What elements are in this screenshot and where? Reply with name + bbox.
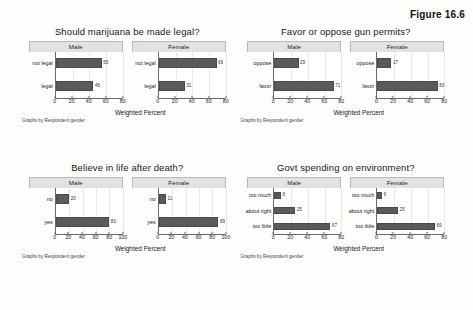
panel-male: Malenot legallegal5545020406080 [29,41,123,108]
tick-label: 60 [206,99,212,104]
bar-value-label: 11 [168,197,173,202]
tick-label: 60 [93,235,99,240]
bar [159,81,185,91]
x-axis: 020406080 [273,99,341,108]
tick-label: 40 [189,99,195,104]
category-label: legal [144,84,155,89]
plot-wrap: too muchabout righttoo little62569 [350,188,444,235]
bar-value-label: 89 [220,220,225,225]
category-label: no [150,197,156,202]
category-label: yes [44,220,52,225]
x-axis: 020406080100 [55,235,123,244]
tick-label: 80 [223,99,229,104]
gridline [226,188,227,234]
tick-label: 0 [53,99,56,104]
tick-label: 80 [209,235,215,240]
bar-value-label: 31 [186,84,191,89]
panel-header: Female [132,41,226,52]
category-label: about right [246,209,271,214]
chart-title: Should marijuana be made legal? [20,26,235,37]
tick-label: 60 [424,99,430,104]
category-label: not legal [135,61,155,66]
plot-wrap: noyes1189 [132,188,226,235]
bar [274,192,281,199]
tick-label: 40 [407,99,413,104]
gridline [341,188,342,234]
bar-row: 11 [159,194,226,204]
axis-title: Weighted Percent [265,109,454,116]
plot-area: 1189 [158,188,226,235]
gridline [444,52,445,98]
gridline [123,188,124,234]
panel-male: Maletoo muchabout righttoo little8256702… [247,177,341,244]
bar [377,207,398,214]
bar [377,192,382,199]
bar [377,223,435,230]
gridline [123,52,124,98]
panel-header: Male [247,177,341,188]
category-label: legal [41,84,52,89]
bar-value-label: 25 [297,208,302,213]
bar [377,81,437,91]
panel-header: Female [350,177,444,188]
panel-female: Femalenoyes1189020406080100 [132,177,226,244]
bar-row: 29 [274,58,341,68]
panel-male: Maleopposefavor2971020406080 [247,41,341,108]
bar-row: 55 [56,58,123,68]
chart-grid: Should marijuana be made legal?Malenot l… [18,24,455,296]
chart-title: Believe in life after death? [20,162,235,173]
category-label: yes [147,220,155,225]
tick-label: 60 [321,99,327,104]
tick-label: 40 [182,235,188,240]
tick-label: 20 [287,99,293,104]
figure-sheet: Figure 16.6 Should marijuana be made leg… [0,0,473,310]
x-axis: 020406080 [273,235,341,244]
tick-label: 80 [106,235,112,240]
plot-area: 2971 [273,52,341,99]
category-label: too much [249,193,271,198]
category-labels: not legallegal [29,52,55,99]
plot-area: 2080 [55,188,123,235]
chart-title: Favor or oppose gun permits? [239,26,454,37]
axis-title: Weighted Percent [46,109,235,116]
bar-row: 8 [274,192,341,199]
panel-header: Male [29,177,123,188]
bar-row: 45 [56,81,123,91]
bar [274,223,330,230]
panel-female: Femaleopposefavor1783020406080 [350,41,444,108]
bar-row: 31 [159,81,226,91]
category-labels: too muchabout righttoo little [350,188,376,235]
tick-label: 60 [321,235,327,240]
bar-row: 20 [56,194,123,204]
category-label: too little [253,224,272,229]
tick-label: 100 [221,235,230,240]
panel-header: Male [29,41,123,52]
bar-row: 17 [377,58,444,68]
bar [56,194,69,204]
category-label: too little [356,224,375,229]
category-label: no [47,197,53,202]
bar-value-label: 17 [393,61,398,66]
tick-label: 40 [304,235,310,240]
tick-label: 80 [120,99,126,104]
panel-female: Femalenot legallegal6931020406080 [132,41,226,108]
tick-label: 20 [69,99,75,104]
bar [274,81,333,91]
bar [274,207,295,214]
axis-title: Weighted Percent [265,245,454,252]
bar [377,58,391,68]
tick-label: 0 [156,235,159,240]
tick-label: 0 [375,235,378,240]
tick-label: 0 [375,99,378,104]
plot-area: 6931 [158,52,226,99]
tick-label: 40 [79,235,85,240]
chart-2: Favor or oppose gun permits?Maleopposefa… [237,24,456,160]
bar-value-label: 55 [103,61,108,66]
tick-label: 40 [407,235,413,240]
panel-header: Female [350,41,444,52]
plot-wrap: opposefavor2971 [247,52,341,99]
plot-wrap: noyes2080 [29,188,123,235]
category-labels: noyes [29,188,55,235]
category-label: about right [349,209,374,214]
bar-row: 25 [377,207,444,214]
